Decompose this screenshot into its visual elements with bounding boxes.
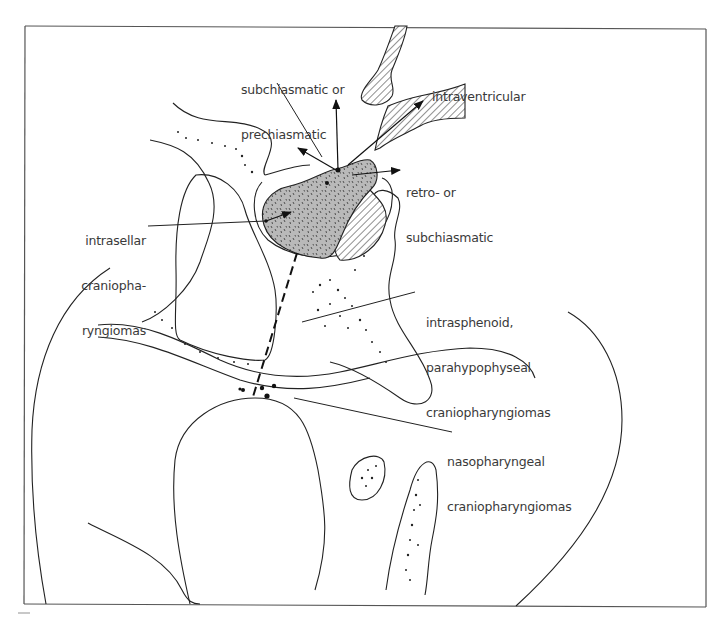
label-line: subchiasmatic or: [241, 82, 344, 97]
label-intrasellar: intrasellar craniopha- ryngiomas: [80, 203, 146, 353]
craniopharyngeal-canal-dashed: [252, 253, 297, 400]
small-bone-right: [386, 462, 438, 595]
planum-line: [265, 165, 310, 175]
label-line: craniopha-: [80, 278, 146, 293]
label-intraventricular: intraventricular: [432, 59, 526, 119]
label-line: parahypophyseal: [426, 360, 551, 375]
sphenoid-sinus-cavity: [175, 175, 276, 361]
label-nasopharyngeal: nasopharyngeal craniopharyngiomas: [447, 424, 572, 529]
label-line: prechiasmatic: [241, 127, 344, 142]
label-line: intraventricular: [432, 89, 526, 104]
label-line: craniopharyngiomas: [426, 405, 551, 420]
label-line: subchiasmatic: [406, 230, 493, 245]
lower-left-curve: [88, 523, 200, 604]
label-line: craniopharyngiomas: [447, 499, 572, 514]
label-line: intrasphenoid,: [426, 315, 551, 330]
label-line: ryngiomas: [80, 323, 146, 338]
label-line: retro- or: [406, 185, 493, 200]
label-subchiasmatic: subchiasmatic or prechiasmatic: [241, 52, 344, 157]
small-bone-left: [350, 456, 385, 500]
label-line: nasopharyngeal: [447, 454, 572, 469]
clivus-head: [174, 398, 325, 604]
optic-stalk-upper: [361, 26, 407, 105]
label-intrasphenoid: intrasphenoid, parahypophyseal craniopha…: [426, 285, 551, 435]
leader-intrasellar: [148, 221, 266, 226]
label-retro-subchiasmatic: retro- or subchiasmatic: [406, 155, 493, 260]
frontal-sinus-inner: [142, 140, 214, 322]
nasopharyngeal-tumor-dots: [238, 384, 276, 399]
leader-intrasphenoid: [302, 292, 415, 322]
label-line: intrasellar: [80, 233, 146, 248]
page-corner-mark: [18, 612, 30, 614]
